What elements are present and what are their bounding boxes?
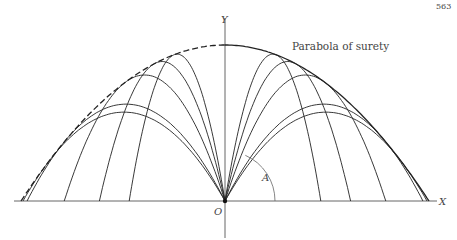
origin-label: O: [214, 206, 222, 217]
page-number: 563: [436, 2, 451, 11]
envelope-label: Parabola of surety: [292, 40, 389, 52]
angle-label: A: [261, 172, 269, 183]
trajectory-128deg: [27, 104, 225, 201]
trajectory-116deg: [64, 75, 225, 201]
trajectory-64deg: [225, 75, 386, 201]
trajectory-52deg: [225, 104, 423, 201]
origin-point: [223, 199, 227, 203]
trajectory-71deg: [225, 62, 351, 202]
projectile-diagram: 563 Y X O A Parabola of surety: [0, 0, 457, 240]
y-axis-label: Y: [221, 14, 229, 25]
trajectory-76deg: [225, 54, 321, 201]
trajectory-109deg: [99, 62, 225, 202]
trajectory-104deg: [129, 54, 225, 201]
x-axis-label: X: [438, 196, 447, 207]
